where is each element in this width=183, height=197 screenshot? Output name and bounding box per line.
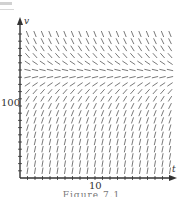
slope-segment (154, 38, 157, 44)
slope-segment (168, 96, 171, 101)
slope-segment (108, 53, 112, 58)
slope-segment (169, 117, 171, 123)
slope-segment (162, 125, 164, 131)
slope-segment (49, 160, 50, 166)
slope-segments (24, 31, 173, 174)
slope-segment (69, 77, 75, 78)
slope-segment (92, 69, 98, 70)
slope-segment (63, 89, 67, 94)
slope-segment (79, 38, 82, 44)
slope-segment (101, 110, 103, 116)
slope-segment (62, 77, 68, 78)
slope-segment (71, 31, 73, 37)
slope-segment (87, 132, 89, 138)
slope-segment (153, 53, 157, 58)
slope-segment (109, 117, 111, 123)
slope-segment (92, 77, 98, 78)
slope-segment (72, 132, 74, 138)
slope-segment (100, 53, 104, 58)
slope-segment (42, 125, 44, 131)
slope-segment (72, 168, 73, 174)
slope-segment (93, 96, 96, 101)
slope-segment (167, 61, 172, 65)
slope-segment (26, 96, 29, 101)
slope-segment (167, 69, 173, 70)
slope-segment (154, 110, 156, 116)
slope-segment (72, 146, 73, 152)
slope-segment (152, 61, 157, 65)
slope-segment (154, 31, 156, 37)
slope-segment (70, 53, 74, 58)
slope-segment (169, 168, 170, 174)
slope-segment (137, 77, 143, 78)
slope-segment (147, 168, 148, 174)
axes (17, 17, 177, 181)
slope-segment (131, 31, 133, 37)
slope-segment (123, 96, 126, 101)
x-axis-label: t (172, 165, 176, 174)
slope-segment (169, 31, 171, 37)
slope-segment (154, 117, 156, 123)
slope-segment (49, 168, 50, 174)
slope-segment (169, 132, 171, 138)
slope-segment (27, 132, 29, 138)
slope-segment (64, 125, 66, 131)
slope-segment (154, 132, 156, 138)
slope-segment (138, 46, 141, 51)
slope-segment (154, 139, 155, 145)
slope-segment (147, 160, 148, 166)
slope-segment (131, 46, 134, 51)
slope-segment (57, 132, 59, 138)
slope-segment (79, 132, 81, 138)
slope-segment (138, 96, 141, 101)
slope-segment (124, 132, 126, 138)
slope-segment (115, 89, 119, 94)
slope-segment (117, 146, 118, 152)
slope-segment (124, 160, 125, 166)
slope-segment (93, 53, 97, 58)
slope-segment (132, 168, 133, 174)
slope-segment (132, 146, 133, 152)
slope-segment (49, 31, 51, 37)
slope-segment (63, 46, 66, 51)
slope-segment (34, 117, 36, 123)
slope-segment (71, 103, 74, 109)
slope-segment (42, 146, 43, 152)
slope-segment (94, 146, 95, 152)
slope-segment (79, 117, 81, 123)
slope-segment (122, 77, 128, 78)
slope-segment (129, 77, 135, 78)
slope-segment (146, 96, 149, 101)
slope-segment (70, 61, 75, 65)
slope-segment (56, 31, 58, 37)
slope-segment (107, 69, 113, 70)
slope-segment (102, 146, 103, 152)
slope-segment (87, 125, 89, 131)
slope-segment (55, 61, 60, 65)
slope-segment (137, 69, 143, 70)
slope-segment (145, 89, 149, 94)
slope-segment (102, 125, 104, 131)
slope-segment (72, 139, 73, 145)
slope-segment (25, 89, 29, 94)
slope-segment (101, 38, 104, 44)
slope-segment (79, 168, 80, 174)
slope-segment (79, 153, 80, 159)
slope-segment (26, 110, 28, 116)
slope-segment (56, 110, 58, 116)
slope-segment (108, 46, 111, 51)
slope-segment (122, 69, 128, 70)
slope-segment (56, 96, 59, 101)
slope-segment (117, 132, 119, 138)
slope-segment (41, 38, 44, 44)
slope-segment (94, 117, 96, 123)
slope-segment (78, 96, 81, 101)
slope-segment (169, 125, 171, 131)
slope-segment (87, 153, 88, 159)
slope-segment (71, 117, 73, 123)
slope-segment (25, 83, 30, 87)
slope-segment (56, 117, 58, 123)
slope-segment (160, 83, 165, 87)
slope-segment (27, 168, 28, 174)
slope-segment (42, 132, 44, 138)
